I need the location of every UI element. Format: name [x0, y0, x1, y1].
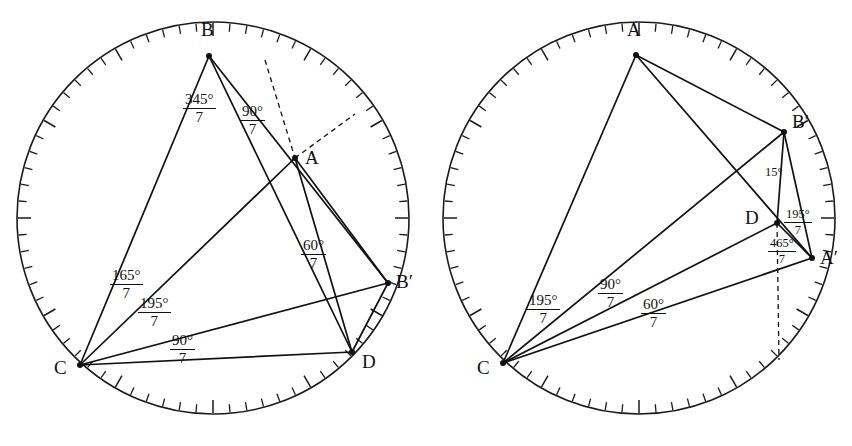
tick-mark	[75, 80, 81, 86]
tick-mark	[131, 41, 134, 48]
tick-mark	[771, 350, 777, 356]
tick-mark	[371, 121, 382, 128]
tick-mark	[366, 325, 373, 330]
tick-mark	[782, 93, 788, 98]
vertex-label-Ap: A′	[820, 247, 838, 268]
tick-mark	[30, 282, 38, 285]
tick-mark	[101, 58, 106, 65]
tick-mark	[456, 151, 464, 154]
angle-60-7: 60°7	[641, 297, 666, 330]
vertex-label-C: C	[54, 357, 67, 378]
tick-mark	[527, 371, 532, 378]
tick-mark	[655, 24, 656, 32]
tick-mark	[382, 136, 389, 139]
tick-mark	[557, 41, 560, 48]
tick-mark	[382, 297, 389, 300]
tick-mark	[445, 234, 453, 235]
tick-mark	[527, 58, 532, 65]
tick-mark	[557, 387, 560, 394]
fraction-numerator: 90°	[240, 104, 265, 121]
fraction-numerator: 195°	[784, 208, 812, 223]
tick-mark	[394, 266, 402, 268]
vertex-dot-A	[292, 155, 298, 161]
tick-mark	[163, 399, 165, 407]
fraction-numerator: 90°	[598, 277, 623, 294]
angle-90-7-b: 90°7	[240, 104, 265, 137]
tick-mark	[397, 184, 405, 185]
fraction-denominator: 7	[240, 121, 265, 137]
angle-345-7: 345°7	[183, 92, 216, 125]
vertex-dot-Ap	[809, 255, 815, 261]
tick-mark	[320, 371, 325, 378]
angle-195-7-c: 195°7	[527, 293, 560, 326]
vertex-dot-C	[500, 360, 506, 366]
vertex-dot-D	[349, 349, 355, 355]
tick-mark	[730, 376, 737, 387]
dashed-A-to-arc	[295, 114, 355, 158]
vertex-dot-C	[77, 362, 83, 368]
tick-mark	[730, 49, 737, 60]
tick-mark	[808, 297, 815, 300]
tick-mark	[179, 402, 180, 410]
vertex-dot-A	[633, 52, 639, 58]
tick-mark	[333, 361, 338, 367]
tick-mark	[292, 41, 295, 48]
tick-mark	[718, 41, 721, 48]
vertex-label-C: C	[477, 357, 490, 378]
tick-mark	[815, 282, 823, 285]
tick-mark	[116, 376, 123, 387]
tick-mark	[456, 282, 464, 285]
tick-mark	[605, 26, 606, 34]
tick-mark	[399, 201, 407, 202]
angle-60-7: 60°7	[301, 238, 326, 271]
tick-mark	[823, 184, 831, 185]
dashed-B-to-A	[265, 60, 295, 158]
tick-mark	[304, 376, 311, 387]
tick-mark	[479, 325, 486, 330]
tick-mark	[622, 24, 623, 32]
angle-195-7: 195°7	[138, 296, 171, 329]
tick-mark	[605, 402, 606, 410]
tick-mark	[759, 69, 764, 75]
tick-mark	[490, 93, 496, 98]
tick-mark	[394, 168, 402, 170]
tick-mark	[333, 69, 338, 75]
tick-mark	[356, 93, 362, 98]
fraction-denominator: 7	[641, 314, 666, 330]
tick-mark	[146, 35, 149, 43]
tick-mark	[447, 184, 455, 185]
vertex-label-Bp: B′	[792, 111, 809, 132]
fraction-numerator: 60°	[301, 238, 326, 255]
left-tick-marks	[18, 23, 408, 413]
left-chords	[80, 56, 388, 365]
tick-mark	[53, 106, 60, 111]
tick-mark	[36, 297, 43, 300]
tick-mark	[490, 338, 496, 343]
angle-465-7: 465°7	[768, 237, 796, 265]
tick-mark	[797, 309, 808, 316]
tick-mark	[53, 325, 60, 330]
fraction-numerator: 165°	[110, 268, 143, 285]
tick-mark	[261, 30, 263, 38]
tick-mark	[64, 338, 70, 343]
tick-mark	[792, 325, 799, 330]
vertex-label-D: D	[362, 351, 376, 372]
tick-mark	[746, 371, 751, 378]
tick-mark	[277, 35, 280, 43]
tick-mark	[64, 93, 70, 98]
tick-mark	[703, 35, 706, 43]
fraction-denominator: 7	[170, 350, 195, 366]
tick-mark	[196, 404, 197, 412]
fraction-numerator: 195°	[527, 293, 560, 310]
tick-mark	[808, 136, 815, 139]
tick-mark	[542, 49, 549, 60]
tick-mark	[671, 402, 672, 410]
tick-mark	[196, 24, 197, 32]
fraction-denominator: 7	[598, 294, 623, 310]
tick-mark	[514, 69, 519, 75]
tick-mark	[622, 404, 623, 412]
tick-mark	[88, 69, 93, 75]
tick-mark	[655, 404, 656, 412]
tick-mark	[245, 402, 246, 410]
tick-mark	[25, 168, 33, 170]
